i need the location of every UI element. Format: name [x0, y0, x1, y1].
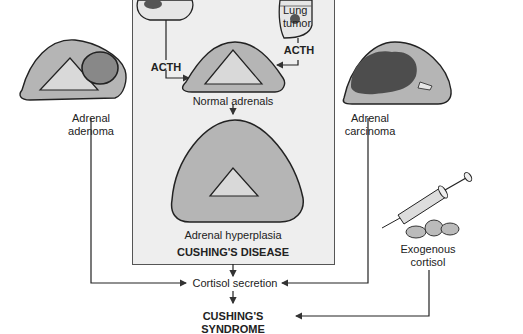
pituitary-tumor-icon — [137, 0, 193, 20]
acth-right-label: ACTH — [282, 44, 316, 57]
adrenal-hyperplasia-label: Adrenal hyperplasia — [178, 229, 288, 242]
normal-adrenals-label: Normal adrenals — [183, 95, 283, 108]
acth-left-label: ACTH — [149, 61, 183, 74]
syringe-icon — [382, 171, 473, 228]
adrenal-hyperplasia-icon — [172, 120, 304, 222]
cushings-syndrome-label: CUSHING'S SYNDROME — [170, 310, 296, 334]
adrenal-carcinoma-icon — [343, 42, 451, 104]
adrenal-adenoma-icon — [20, 40, 126, 100]
normal-adrenal-icon — [183, 42, 285, 92]
lung-tumor-label: Lung tumor — [283, 4, 313, 30]
exogenous-cortisol-label: Exogenous cortisol — [398, 243, 458, 269]
pills-icon — [406, 220, 459, 238]
cortisol-secretion-label: Cortisol secretion — [190, 277, 280, 290]
cushings-disease-label: CUSHING'S DISEASE — [170, 246, 296, 259]
adrenal-adenoma-label: Adrenal adenoma — [68, 112, 114, 138]
adrenal-carcinoma-label: Adrenal carcinoma — [343, 112, 397, 138]
